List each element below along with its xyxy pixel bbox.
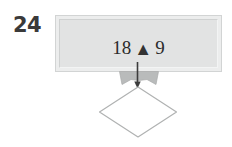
figure-container: 24 18▲9 bbox=[0, 0, 232, 147]
filled-triangle-icon: ▲ bbox=[134, 39, 152, 59]
beveled-rectangle-inner: 18▲9 bbox=[59, 19, 218, 68]
white-diamond-path bbox=[100, 87, 177, 137]
problem-number-label: 24 bbox=[13, 12, 47, 38]
equation-left-operand: 18 bbox=[112, 37, 131, 58]
white-diamond-svg bbox=[98, 86, 178, 138]
equation-right-operand: 9 bbox=[155, 37, 165, 58]
equation-expression: 18▲9 bbox=[60, 38, 217, 58]
white-diamond-shape bbox=[98, 86, 178, 138]
